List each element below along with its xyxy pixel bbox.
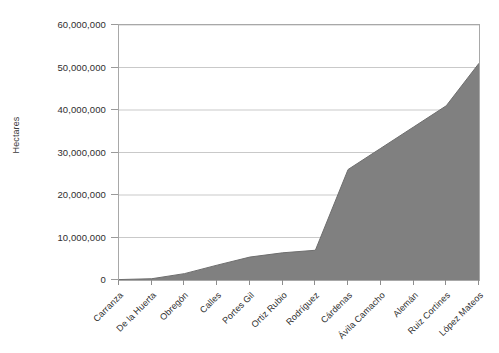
y-axis-tick-labels: 010,000,00020,000,00030,000,00040,000,00…	[30, 0, 110, 290]
y-axis-tick-label: 40,000,000	[57, 104, 106, 115]
y-axis-tick-label: 20,000,000	[57, 189, 106, 200]
y-axis-tick-mark	[111, 279, 118, 280]
x-axis-tick-mark	[478, 280, 479, 285]
x-axis-tick-labels: CarranzaDe la HuertaObregónCallesPortes …	[0, 286, 499, 353]
x-axis-tick-mark	[445, 280, 446, 285]
area-series-svg	[119, 25, 479, 280]
x-axis-tick-mark	[282, 280, 283, 285]
y-axis-tick-label: 10,000,000	[57, 231, 106, 242]
x-axis-tick-mark	[413, 280, 414, 285]
x-axis-tick-mark	[347, 280, 348, 285]
area-chart: Hectares 010,000,00020,000,00030,000,000…	[0, 0, 499, 353]
y-axis-tick-mark	[111, 237, 118, 238]
y-axis-tick-label: 30,000,000	[57, 146, 106, 157]
plot-area	[118, 24, 480, 281]
y-axis-tick-mark	[111, 67, 118, 68]
x-axis-tick-mark	[216, 280, 217, 285]
y-axis-tick-label: 50,000,000	[57, 61, 106, 72]
y-axis-tick-label: 0	[101, 274, 106, 285]
y-axis-tick-mark	[111, 194, 118, 195]
x-axis-tick-mark	[314, 280, 315, 285]
y-axis-tick-mark	[111, 24, 118, 25]
x-axis-tick-mark	[380, 280, 381, 285]
y-axis-tick-mark	[111, 152, 118, 153]
y-axis-tick-label: 60,000,000	[57, 19, 106, 30]
x-axis-tick-mark	[183, 280, 184, 285]
x-axis-tick-mark	[151, 280, 152, 285]
y-axis-title: Hectares	[11, 95, 21, 175]
y-axis-tick-mark	[111, 109, 118, 110]
x-axis-tick-mark	[118, 280, 119, 285]
area-fill-path	[119, 63, 479, 280]
x-axis-tick-mark	[249, 280, 250, 285]
